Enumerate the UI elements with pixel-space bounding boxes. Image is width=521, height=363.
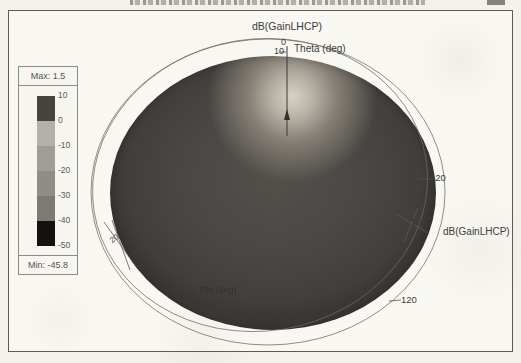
plot-title: dB(GainLHCP) bbox=[252, 21, 322, 32]
colorbar-tick: 10 bbox=[58, 91, 67, 100]
colorbar-segment bbox=[37, 146, 55, 171]
colorbar-segment bbox=[37, 96, 55, 121]
radial-axis-label: dB(GainLHCP) bbox=[443, 227, 510, 237]
theta-tick-10: 10 bbox=[274, 47, 284, 56]
colorbar-segment bbox=[37, 121, 55, 146]
phi-tick-120-lower: 120 bbox=[401, 295, 417, 305]
colorbar-segment bbox=[37, 171, 55, 196]
colorbar-tick: -30 bbox=[58, 191, 70, 200]
phi-tick-120-upper: 120 bbox=[430, 173, 446, 183]
phi-axis-label: Phi (deg) bbox=[200, 286, 237, 295]
colorbar-tick: -50 bbox=[58, 241, 70, 250]
theta-axis-label: Theta (deg) bbox=[294, 44, 346, 54]
grid-crossing-line bbox=[112, 220, 130, 270]
colorbar-tick: 0 bbox=[58, 116, 63, 125]
colorbar-segment bbox=[37, 221, 55, 246]
beam-peak-marker bbox=[284, 109, 290, 120]
colorbar-tick: -40 bbox=[58, 216, 70, 225]
colorbar-legend: Max: 1.5 10 0 -10 -20 -30 -40 -50 Min: -… bbox=[18, 66, 78, 275]
polar-grid-circle bbox=[71, 15, 449, 356]
colorbar-segment bbox=[37, 196, 55, 221]
radial-tick-10: 10 bbox=[411, 218, 421, 227]
colorbar bbox=[37, 96, 55, 246]
colorbar-min-label: Min: -45.8 bbox=[19, 255, 77, 274]
label-leader-line bbox=[389, 300, 401, 301]
scanned-figure-page: dB(GainLHCP) 0 10 Theta (deg) 120 10 dB(… bbox=[0, 0, 521, 363]
colorbar-tick: -10 bbox=[58, 141, 70, 150]
grid-crossing-line bbox=[104, 222, 137, 268]
polar-grid-circle bbox=[91, 39, 445, 345]
colorbar-max-label: Max: 1.5 bbox=[19, 67, 77, 86]
colorbar-tick: -20 bbox=[58, 166, 70, 175]
